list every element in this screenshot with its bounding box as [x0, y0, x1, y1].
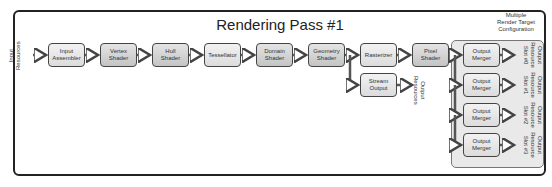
stage-domain-shader: Domain Shader [256, 43, 293, 67]
stream-output-resources-label: Output Resources [412, 76, 426, 105]
stage-stream-output: Stream Output [360, 73, 397, 97]
slot-label-1: Output Resource Slot #1 [522, 70, 543, 100]
stage-pixel-shader: Pixel Shader [412, 43, 449, 67]
output-merger-0: Output Merger [463, 43, 500, 67]
stage-vertex-shader: Vertex Shader [100, 43, 137, 67]
stage-geometry-shader: Geometry Shader [308, 43, 345, 67]
output-merger-3: Output Merger [463, 133, 500, 157]
stage-input-assembler: Input Assembler [48, 43, 85, 67]
stage-hull-shader: Hull Shader [152, 43, 189, 67]
output-merger-2: Output Merger [463, 103, 500, 127]
slot-label-3: Output Resource Slot #3 [522, 130, 543, 160]
slot-label-0: Output Resource Slot #0 [522, 40, 543, 70]
stage-rasterizer: Rasterizer [360, 43, 397, 67]
stage-tessellator: Tessellator [204, 43, 241, 67]
output-merger-1: Output Merger [463, 73, 500, 97]
slot-label-2: Output Resource Slot #2 [522, 100, 543, 130]
